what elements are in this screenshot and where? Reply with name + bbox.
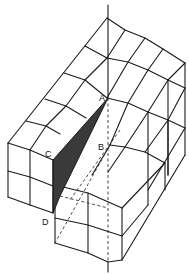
label-d: D	[42, 217, 49, 227]
right-side-face	[122, 63, 185, 260]
label-a: A	[99, 93, 105, 103]
cube-solid-diagram: A B C D	[0, 0, 189, 275]
label-c: C	[45, 149, 52, 159]
top-surface-grid	[8, 18, 185, 175]
label-b: B	[98, 142, 104, 152]
